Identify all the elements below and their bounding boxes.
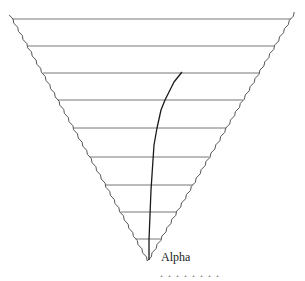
triangle-left-edge: [9, 15, 147, 261]
cutoff-caption: . . . . . . . .: [160, 266, 220, 281]
alpha-label: Alpha: [161, 250, 190, 265]
triangle-right-edge: [147, 12, 294, 261]
